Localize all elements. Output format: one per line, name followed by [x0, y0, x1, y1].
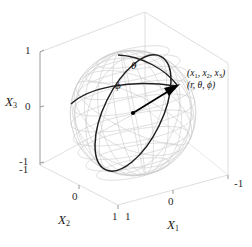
x1-tick-0: 0: [168, 196, 174, 207]
x2-tick-neg1: -1: [19, 164, 28, 175]
x3-axis-label: X3: [5, 95, 17, 110]
x2-axis-ticks: [79, 185, 118, 209]
spherical-coordinates-label: (r, θ, ϕ): [187, 81, 215, 91]
x2-axis-label: X2: [58, 213, 70, 228]
x1-axis-label: X1: [167, 218, 179, 233]
x1-axis-ticks: [173, 175, 228, 194]
origin-dot: [131, 111, 135, 115]
x2-tick-0: 0: [72, 191, 78, 202]
spherical-coordinates-figure: 1 0 -1 X3 -1 0 1 X2 1 0 -1 X1 θ ϕ (x1, x…: [0, 0, 252, 247]
phi-label: ϕ: [115, 80, 121, 91]
theta-label: θ: [131, 60, 136, 71]
x3-tick-1: 1: [25, 45, 31, 56]
x1-tick-1: 1: [125, 211, 131, 222]
x3-axis-line: [40, 50, 44, 165]
x2-tick-1: 1: [112, 211, 118, 222]
x1-tick-neg1: -1: [234, 178, 243, 189]
cartesian-coordinates-label: (x1, x2, x3): [187, 69, 225, 79]
x3-tick-0: 0: [25, 101, 31, 112]
